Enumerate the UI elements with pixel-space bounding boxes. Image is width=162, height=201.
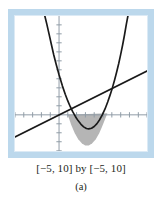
viewing-window-caption: [−5, 10] by [−5, 10]: [0, 162, 162, 174]
figure-part-label: (a): [0, 181, 162, 192]
parabola-curve: [45, 16, 128, 129]
figure-container: [−5, 10] by [−5, 10] (a): [0, 0, 162, 201]
calculator-screen: [14, 15, 148, 152]
calculator-screen-bezel: [8, 9, 154, 158]
graph-plot: [15, 16, 147, 151]
